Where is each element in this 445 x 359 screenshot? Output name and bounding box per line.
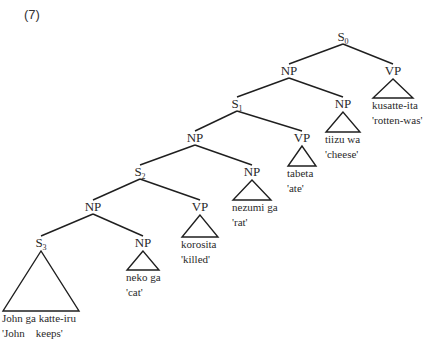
- tree-edge-s0-vp_a: [343, 44, 393, 64]
- leaf-gloss: 'rat': [232, 216, 248, 228]
- node-label: VP: [294, 130, 311, 145]
- syntax-tree-figure: (7) S0NPVPkusatte-ita'rotten-was'S1NPtii…: [0, 0, 445, 359]
- node-label: S3: [35, 235, 46, 252]
- node-label: NP: [187, 130, 204, 145]
- leaf-japanese: tiizu wa: [325, 133, 360, 145]
- syntax-tree: S0NPVPkusatte-ita'rotten-was'S1NPtiizu w…: [0, 0, 445, 359]
- tree-node-vp-b: VPtabeta'ate': [287, 130, 316, 194]
- node-label: NP: [85, 199, 102, 214]
- leaf-japanese: tabeta: [287, 167, 313, 179]
- leaf-gloss: 'John keeps': [2, 327, 63, 339]
- triangle-abbreviation: [288, 146, 316, 166]
- tree-edge-s1-vp_b: [237, 111, 302, 131]
- tree-edge-np_e-s3: [41, 214, 93, 236]
- example-number: (7): [24, 7, 40, 22]
- leaf-japanese: neko ga: [126, 271, 161, 283]
- tree-node-np-d: NPnezumi ga'rat': [232, 164, 278, 228]
- node-label: S1: [231, 96, 242, 113]
- triangle-abbreviation: [326, 112, 360, 132]
- tree-edge-np_c-s2: [140, 145, 195, 165]
- tree-node-np-a: NP: [281, 63, 298, 78]
- leaf-japanese: nezumi ga: [232, 201, 278, 213]
- leaf-gloss: 'ate': [287, 182, 304, 194]
- tree-node-s1: S1: [231, 96, 242, 113]
- node-subscript: 3: [43, 243, 47, 252]
- tree-edge-s2-np_e: [93, 179, 140, 200]
- tree-node-np-b: NPtiizu wa'cheese': [325, 96, 360, 160]
- leaf-gloss: 'cat': [126, 286, 143, 298]
- tree-edge-s0-np_a: [289, 44, 343, 64]
- leaf-gloss: 'killed': [181, 253, 210, 265]
- tree-edge-s1-np_c: [195, 111, 237, 131]
- node-subscript: 0: [345, 37, 349, 46]
- leaf-japanese: korosita: [181, 238, 217, 250]
- node-label: VP: [192, 199, 209, 214]
- tree-node-np-e: NP: [85, 199, 102, 214]
- triangle-abbreviation: [233, 180, 271, 200]
- leaf-gloss: 'cheese': [325, 148, 358, 160]
- node-label: NP: [244, 164, 261, 179]
- tree-node-s2: S2: [134, 164, 145, 181]
- node-subscript: 1: [239, 104, 243, 113]
- node-label: VP: [385, 63, 402, 78]
- triangle-abbreviation: [182, 215, 218, 237]
- tree-node-vp-c: VPkorosita'killed': [181, 199, 218, 265]
- leaf-japanese: kusatte-ita: [372, 99, 418, 111]
- tree-edge-s2-vp_c: [140, 179, 200, 200]
- node-label: S0: [337, 29, 348, 46]
- tree-edge-np_e-np_f: [93, 214, 143, 236]
- tree-node-np-c: NP: [187, 130, 204, 145]
- leaf-japanese: John ga katte-iru: [2, 312, 76, 324]
- tree-edge-np_a-np_b: [289, 78, 343, 97]
- tree-edge-np_a-s1: [237, 78, 289, 97]
- node-subscript: 2: [142, 172, 146, 181]
- tree-node-s3: S3John ga katte-iru'John keeps': [2, 235, 79, 339]
- leaf-gloss: 'rotten-was': [372, 114, 422, 126]
- triangle-abbreviation: [3, 251, 79, 311]
- tree-node-vp-a: VPkusatte-ita'rotten-was': [372, 63, 422, 126]
- triangle-abbreviation: [127, 251, 159, 270]
- node-label: NP: [281, 63, 298, 78]
- triangle-abbreviation: [373, 79, 413, 98]
- node-label: NP: [335, 96, 352, 111]
- tree-edge-np_c-np_d: [195, 145, 252, 165]
- tree-node-np-f: NPneko ga'cat': [126, 235, 161, 298]
- node-label: S2: [134, 164, 145, 181]
- tree-node-s0: S0: [337, 29, 348, 46]
- node-label: NP: [135, 235, 152, 250]
